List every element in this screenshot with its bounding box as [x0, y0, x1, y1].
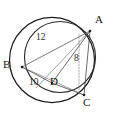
vertex-label-C: C: [83, 97, 90, 108]
outer-circle: [10, 18, 95, 103]
segment-BA-solid: [22, 31, 90, 67]
measure-label-12: 12: [36, 33, 46, 43]
vertex-label-D: D: [50, 76, 58, 87]
measure-label-8: 8: [74, 54, 79, 64]
segment-AC: [84, 31, 90, 95]
geometry-figure: A B C D 12 8 10: [0, 0, 113, 113]
vertex-label-B: B: [3, 59, 10, 70]
measure-label-10: 10: [29, 78, 39, 88]
vertex-dot-B: [21, 66, 24, 69]
vertex-dot-A: [89, 30, 92, 33]
vertex-label-A: A: [95, 14, 103, 25]
